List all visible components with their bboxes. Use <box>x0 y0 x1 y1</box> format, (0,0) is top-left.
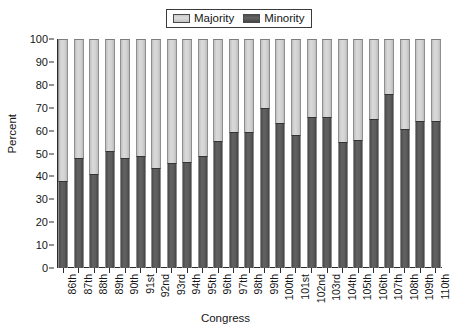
bar-column[interactable] <box>260 39 270 268</box>
bar-segment-minority <box>322 117 332 268</box>
bar-segment-majority <box>136 39 146 156</box>
x-axis-labels: 86th87th88th89th90th91st92nd93rd94th95th… <box>57 274 442 312</box>
bar-column[interactable] <box>198 39 208 268</box>
y-axis-tick-label: 20 <box>36 217 48 228</box>
y-axis-tick-label: 50 <box>36 148 48 159</box>
bar-segment-minority <box>369 119 379 268</box>
y-axis-tick-mark <box>49 199 54 200</box>
legend-swatch-majority-icon <box>173 14 190 23</box>
bar-segment-majority <box>74 39 84 158</box>
bar-column[interactable] <box>244 39 254 268</box>
bar-segment-majority <box>244 39 254 132</box>
bar-column[interactable] <box>369 39 379 268</box>
bar-segment-majority <box>291 39 301 135</box>
y-axis-tick-label: 60 <box>36 125 48 136</box>
bar-segment-minority <box>415 121 425 268</box>
bar-column[interactable] <box>384 39 394 268</box>
y-axis-tick-label: 30 <box>36 194 48 205</box>
x-axis-label-slot: 90th <box>120 274 130 312</box>
bar-series-container <box>57 39 442 268</box>
bar-segment-minority <box>182 162 192 268</box>
bar-segment-majority <box>229 39 239 132</box>
bar-column[interactable] <box>353 39 363 268</box>
x-axis-label-slot: 103rd <box>322 274 332 312</box>
bar-column[interactable] <box>120 39 130 268</box>
x-axis-title: Congress <box>0 313 451 325</box>
bar-column[interactable] <box>136 39 146 268</box>
bar-column[interactable] <box>182 39 192 268</box>
legend-swatch-minority-icon <box>243 14 260 23</box>
x-axis-label-slot: 93rd <box>167 274 177 312</box>
y-axis-title: Percent <box>7 94 19 174</box>
y-axis-tick-label: 0 <box>42 263 48 274</box>
y-axis-tick-label: 100 <box>30 34 48 45</box>
bar-column[interactable] <box>58 39 68 268</box>
bar-segment-majority <box>198 39 208 156</box>
bar-segment-minority <box>120 158 130 268</box>
bar-column[interactable] <box>400 39 410 268</box>
x-axis-label-slot: 107th <box>384 274 394 312</box>
bar-segment-majority <box>322 39 332 117</box>
legend-label-minority: Minority <box>264 13 304 25</box>
bar-column[interactable] <box>105 39 115 268</box>
x-axis-label-slot: 92nd <box>151 274 161 312</box>
bar-column[interactable] <box>151 39 161 268</box>
y-axis-tick-mark <box>49 61 54 62</box>
bar-column[interactable] <box>431 39 441 268</box>
bar-column[interactable] <box>322 39 332 268</box>
bar-segment-minority <box>400 129 410 268</box>
x-axis-label-slot: 110th <box>431 274 441 312</box>
bar-segment-minority <box>151 168 161 268</box>
bar-segment-majority <box>307 39 317 117</box>
x-axis-label-slot: 94th <box>182 274 192 312</box>
plot-area <box>57 39 442 268</box>
x-axis-label-slot: 97th <box>229 274 239 312</box>
y-axis-tick-mark <box>49 84 54 85</box>
bar-segment-majority <box>105 39 115 151</box>
x-axis-label-slot: 109th <box>415 274 425 312</box>
legend-entry-majority: Majority <box>173 13 234 25</box>
bar-segment-minority <box>136 156 146 268</box>
bar-segment-majority <box>167 39 177 163</box>
bar-column[interactable] <box>291 39 301 268</box>
y-axis-tick-mark <box>49 176 54 177</box>
bar-segment-minority <box>213 141 223 268</box>
bar-segment-majority <box>275 39 285 123</box>
bar-column[interactable] <box>167 39 177 268</box>
x-axis-label-slot: 86th <box>58 274 68 312</box>
x-axis-label-slot: 95th <box>198 274 208 312</box>
bar-column[interactable] <box>415 39 425 268</box>
bar-segment-minority <box>89 174 99 268</box>
bar-segment-minority <box>260 108 270 268</box>
x-axis-label-slot: 102nd <box>307 274 317 312</box>
bar-segment-majority <box>400 39 410 129</box>
x-axis-label-slot: 101st <box>291 274 301 312</box>
bar-segment-minority <box>198 156 208 268</box>
bar-segment-majority <box>151 39 161 168</box>
y-axis-tick-mark <box>49 107 54 108</box>
y-axis-tick-label: 40 <box>36 171 48 182</box>
bar-column[interactable] <box>213 39 223 268</box>
bar-segment-majority <box>58 39 68 181</box>
bar-segment-minority <box>229 132 239 268</box>
bar-segment-minority <box>384 94 394 268</box>
x-axis-label-slot: 99th <box>260 274 270 312</box>
bar-segment-minority <box>74 158 84 268</box>
bar-segment-majority <box>353 39 363 140</box>
bar-column[interactable] <box>338 39 348 268</box>
y-axis-tick-mark <box>49 39 54 40</box>
x-axis-label-slot: 91st <box>136 274 146 312</box>
bar-column[interactable] <box>275 39 285 268</box>
x-axis-label-slot: 106th <box>369 274 379 312</box>
bar-column[interactable] <box>307 39 317 268</box>
y-axis-tick-label: 70 <box>36 102 48 113</box>
y-axis-tick-mark <box>49 153 54 154</box>
x-axis-label-slot: 89th <box>105 274 115 312</box>
bar-segment-majority <box>213 39 223 141</box>
bar-column[interactable] <box>229 39 239 268</box>
y-axis-tick-mark <box>49 130 54 131</box>
bar-segment-majority <box>89 39 99 174</box>
x-axis-label-slot: 96th <box>213 274 223 312</box>
bar-column[interactable] <box>74 39 84 268</box>
bar-column[interactable] <box>89 39 99 268</box>
